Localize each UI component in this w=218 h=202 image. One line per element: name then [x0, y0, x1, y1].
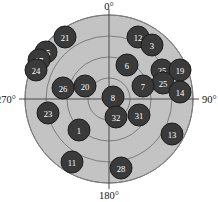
data-point[interactable]: 24: [25, 59, 47, 81]
data-point-label: 14: [176, 88, 185, 98]
axis-label-bottom: 180°: [99, 190, 119, 201]
polar-plot-svg: 211231517246251925726201482332311131128 …: [0, 0, 218, 202]
data-point-label: 3: [150, 41, 154, 51]
data-point[interactable]: 7: [132, 75, 154, 97]
data-point[interactable]: 21: [54, 26, 76, 48]
data-point[interactable]: 28: [110, 157, 132, 179]
data-point[interactable]: 20: [74, 75, 96, 97]
data-point-label: 6: [125, 61, 130, 71]
data-point-label: 1: [77, 126, 81, 136]
data-point-label: 21: [61, 33, 70, 43]
data-point-label: 23: [44, 109, 53, 119]
polar-scatter-chart: 211231517246251925726201482332311131128 …: [0, 0, 218, 202]
data-point-label: 28: [117, 164, 126, 174]
data-point-label: 31: [135, 111, 144, 121]
data-point[interactable]: 31: [128, 104, 150, 126]
data-point-label: 24: [32, 66, 41, 76]
axis-label-right: 90°: [202, 94, 217, 105]
axis-label-left: 270°: [0, 94, 16, 105]
data-point-label: 20: [81, 82, 90, 92]
data-point-label: 8: [111, 93, 115, 103]
data-point-label: 25: [159, 79, 168, 89]
data-point-label: 19: [176, 66, 185, 76]
data-point[interactable]: 8: [102, 86, 124, 108]
data-point[interactable]: 1: [68, 119, 90, 141]
data-point-label: 13: [168, 130, 177, 140]
data-point-label: 7: [141, 82, 146, 92]
data-point[interactable]: 6: [116, 54, 138, 76]
data-point-label: 11: [68, 158, 76, 168]
data-point[interactable]: 13: [161, 123, 183, 145]
data-point[interactable]: 14: [169, 81, 191, 103]
data-point[interactable]: 3: [141, 34, 163, 56]
data-point[interactable]: 32: [105, 106, 127, 128]
data-point-label: 32: [112, 113, 121, 123]
data-point-label: 12: [134, 33, 143, 43]
data-point[interactable]: 26: [52, 77, 74, 99]
data-point[interactable]: 23: [37, 102, 59, 124]
data-point[interactable]: 11: [61, 151, 83, 173]
axis-label-top: 0°: [104, 1, 113, 12]
data-point-label: 26: [59, 84, 68, 94]
